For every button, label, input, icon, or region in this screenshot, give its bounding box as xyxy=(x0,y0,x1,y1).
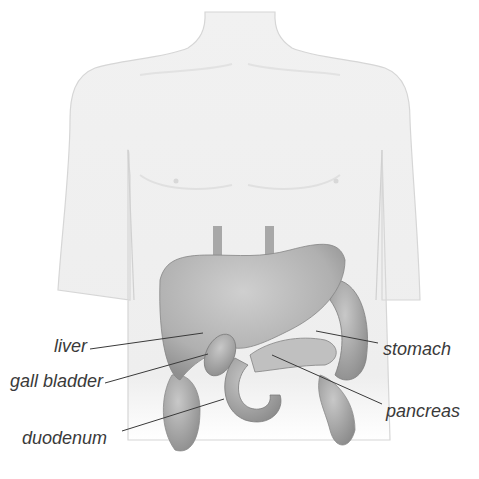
label-pancreas: pancreas xyxy=(386,402,460,420)
label-gall-bladder: gall bladder xyxy=(10,372,103,390)
label-duodenum: duodenum xyxy=(22,429,107,447)
label-stomach: stomach xyxy=(383,340,451,358)
label-liver: liver xyxy=(54,337,87,355)
anatomy-diagram: liver gall bladder duodenum stomach panc… xyxy=(0,0,479,479)
